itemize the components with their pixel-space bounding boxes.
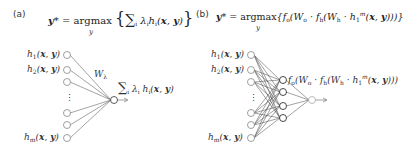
vertical-ellipsis: ⋮	[65, 93, 74, 103]
input-label-h1: h1(x, y)	[27, 49, 60, 60]
input-label-h1-b: h1(x, y)	[211, 49, 244, 60]
panel-b-edges	[254, 55, 327, 138]
hidden-label: fo(Wo · fh(Wh · h1m(x, y)))	[288, 73, 398, 86]
panel-b-equation: y* = argmax{fo(Wo · fh(Wh · h1m(x, y)))}	[216, 10, 404, 23]
figure: (a) y* = argmax {∑i λihi(x, y)} y h1(x, …	[0, 0, 407, 153]
panel-b-output-node	[309, 97, 316, 104]
input-label-hm-b: hm(x, y)	[208, 132, 243, 143]
panel-b-hidden-nodes	[280, 77, 287, 122]
input-label-h2: h2(x, y)	[27, 64, 60, 75]
vertical-ellipsis-b: ⋮	[249, 93, 258, 103]
input-label-hm: hm(x, y)	[24, 132, 59, 143]
panel-a-edges	[70, 55, 128, 138]
panel-a-equation: y* = argmax {∑i λihi(x, y)}	[48, 9, 193, 28]
panel-b-argmax-sub: y	[256, 24, 260, 32]
panel-b-label: (b)	[196, 9, 209, 19]
input-label-h2-b: h2(x, y)	[211, 64, 244, 75]
panel-a-argmax-sub: y	[89, 28, 93, 36]
weight-label: Wλ	[94, 69, 107, 80]
output-label: ∑i λi hi(x, y)	[118, 80, 174, 95]
panel-a-label: (a)	[13, 9, 26, 19]
